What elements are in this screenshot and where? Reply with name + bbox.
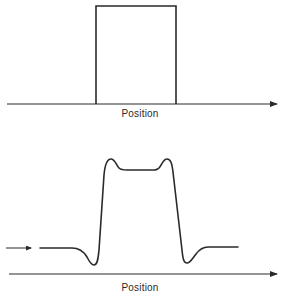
- top-panel: [7, 6, 277, 104]
- diagram-canvas: Position Position: [0, 0, 284, 298]
- diagram-svg: [0, 0, 284, 298]
- top-axis-label: Position: [121, 108, 158, 119]
- bottom-axis-label: Position: [121, 282, 158, 293]
- bottom-panel: [6, 159, 277, 274]
- ideal-rectangular-pulse: [96, 6, 176, 104]
- blurred-edge-profile-curve: [40, 159, 238, 265]
